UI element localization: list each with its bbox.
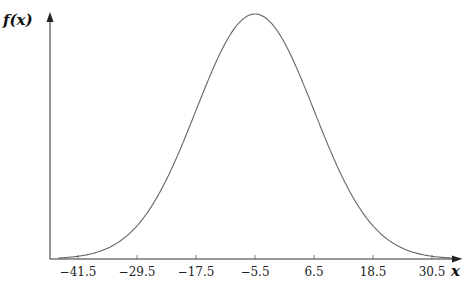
y-axis-arrow-icon: [47, 12, 54, 22]
y-axis-label: f(x): [2, 11, 33, 29]
x-tick-label: −5.5: [240, 265, 269, 279]
x-tick-label: −29.5: [119, 265, 156, 279]
x-tick-label: −41.5: [60, 265, 97, 279]
chart: −41.5−29.5−17.5−5.56.518.530.5 f(x) x: [0, 0, 469, 281]
x-tick-label: 30.5: [419, 265, 446, 279]
x-tick-label: 18.5: [360, 265, 387, 279]
x-tick-label: −17.5: [178, 265, 215, 279]
x-axis-label: x: [450, 262, 461, 280]
density-curve: [58, 14, 461, 258]
x-tick-label: 6.5: [304, 265, 323, 279]
